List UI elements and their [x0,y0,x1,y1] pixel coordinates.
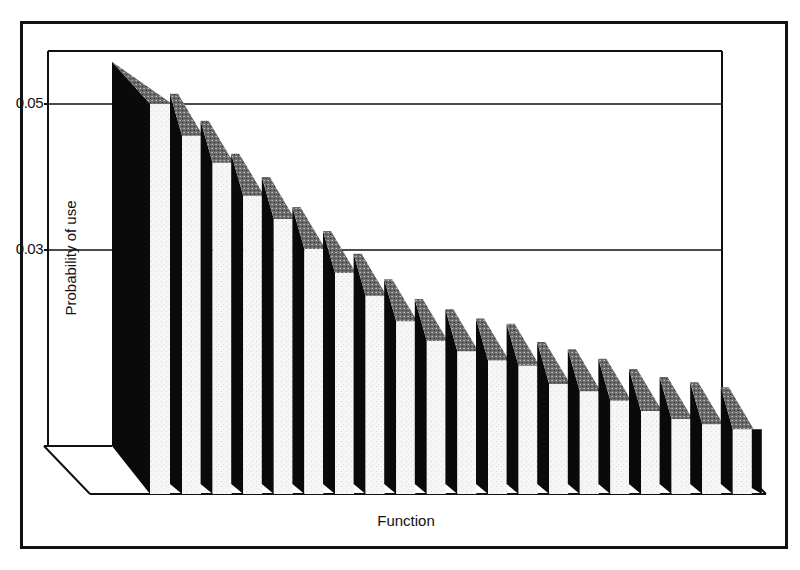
bar [721,387,754,494]
bar [231,154,264,494]
bar-front-face [150,104,170,494]
bar-front-face [396,321,415,494]
bar-side-face [112,62,150,494]
bar-side-face [323,231,335,494]
bar-front-face [213,163,232,494]
bar [476,319,509,494]
bars [112,62,762,494]
plot-area [0,0,800,570]
bar-front-face [366,296,385,494]
bar-side-face [201,121,213,494]
bar-front-face [182,136,201,494]
bar-front-face [304,249,323,494]
bar-front-face [274,219,293,494]
bar [568,349,601,494]
bar-front-face [243,196,262,494]
y-tick-label-0.03: 0.03 [8,240,43,257]
chart: 0.05 0.03 Probability of use Function [0,0,800,570]
bar-side-face [231,154,243,494]
bar-front-face [641,411,660,494]
y-tick-label-0.05: 0.05 [8,94,43,111]
bar [507,324,540,494]
bar [170,94,203,494]
bar [201,121,234,494]
bar-front-face [335,273,354,494]
bar-side-face [752,429,762,494]
bar [537,342,570,494]
bar-front-face [580,391,599,494]
bar [445,309,478,494]
bar-front-face [519,366,538,494]
bar [598,359,631,494]
bar-front-face [488,361,507,494]
bar [384,279,417,494]
bar-front-face [733,429,752,494]
bar-front-face [610,401,629,494]
bar-side-face [292,207,304,494]
bar-front-face [457,351,476,494]
bar-front-face [672,419,691,494]
bar [354,254,387,494]
y-axis-label: Probability of use [62,200,79,315]
bar [690,382,723,494]
bar-side-face [170,94,182,494]
bar-side-face [354,254,366,494]
bar [262,177,295,494]
bar [660,377,693,494]
bar-front-face [427,341,446,494]
bar [292,207,325,494]
bar [629,369,662,494]
bar-front-face [549,384,568,494]
x-axis-label: Function [377,512,435,529]
bar [112,62,172,494]
bar [323,231,356,494]
bar-front-face [702,424,721,494]
bar-side-face [262,177,274,494]
bar [415,299,448,494]
